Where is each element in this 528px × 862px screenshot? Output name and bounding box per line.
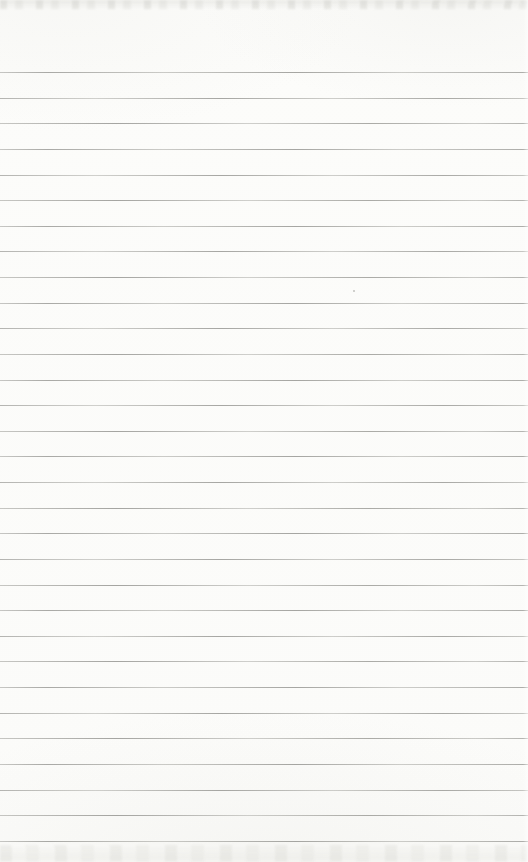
rule-line	[0, 790, 528, 791]
scan-speck	[353, 290, 355, 292]
rule-line	[0, 328, 528, 329]
scan-bottom-edge	[0, 845, 528, 862]
rule-line	[0, 456, 528, 457]
rule-line	[0, 380, 528, 381]
rule-line	[0, 713, 528, 714]
rule-line	[0, 764, 528, 765]
rule-line	[0, 559, 528, 560]
rule-line	[0, 72, 528, 73]
rule-line	[0, 610, 528, 611]
rule-line	[0, 405, 528, 406]
rule-line	[0, 123, 528, 124]
rule-line	[0, 175, 528, 176]
rule-line	[0, 841, 528, 842]
rule-line	[0, 431, 528, 432]
rule-line	[0, 533, 528, 534]
rule-line	[0, 226, 528, 227]
page-right-edge	[523, 0, 528, 862]
rule-line	[0, 482, 528, 483]
rule-line	[0, 149, 528, 150]
rule-line	[0, 354, 528, 355]
rule-line	[0, 303, 528, 304]
rule-line	[0, 251, 528, 252]
rule-line	[0, 585, 528, 586]
rule-line	[0, 277, 528, 278]
notebook-page	[0, 0, 528, 862]
rule-line	[0, 661, 528, 662]
rule-line	[0, 636, 528, 637]
rule-line	[0, 98, 528, 99]
ruled-lines	[0, 0, 528, 862]
rule-line	[0, 200, 528, 201]
rule-line	[0, 815, 528, 816]
rule-line	[0, 738, 528, 739]
rule-line	[0, 687, 528, 688]
rule-line	[0, 508, 528, 509]
